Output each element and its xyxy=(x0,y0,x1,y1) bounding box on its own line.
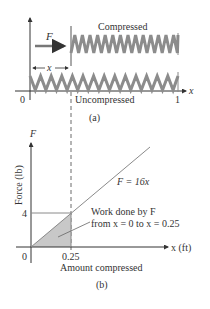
tick-x-025: 0.25 xyxy=(62,251,80,262)
panel-b: F Force (lb) 4 0 0.25 x (ft) Amount comp… xyxy=(13,128,191,291)
y-axis-title: Force (lb) xyxy=(13,165,25,205)
tick-1-a: 1 xyxy=(175,94,180,105)
force-label: F xyxy=(45,30,53,42)
caption-b: (b) xyxy=(96,279,108,291)
equation-label: F = 16x xyxy=(116,176,150,187)
compressed-spring xyxy=(71,35,178,53)
uncompressed-spring xyxy=(30,76,178,90)
force-line xyxy=(31,147,150,247)
tick-0-a: 0 xyxy=(20,94,25,105)
compressed-label: Compressed xyxy=(98,21,147,32)
tick-y-4: 4 xyxy=(22,208,27,219)
displacement-label: x xyxy=(46,62,52,73)
x-axis-label-b: x (ft) xyxy=(171,242,191,254)
uncompressed-label: Uncompressed xyxy=(75,94,134,105)
annotation-line1: Work done by F xyxy=(91,206,156,217)
annotation-line2: from x = 0 to x = 0.25 xyxy=(91,218,180,229)
y-axis-symbol: F xyxy=(29,128,37,139)
x-axis-title: Amount compressed xyxy=(60,262,143,273)
x-axis-label-a: x xyxy=(188,85,194,96)
caption-a: (a) xyxy=(89,112,100,124)
tick-origin: 0 xyxy=(22,251,27,262)
